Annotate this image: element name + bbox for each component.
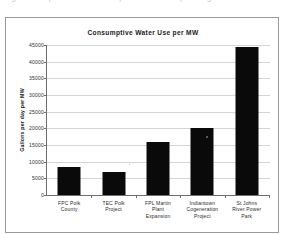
y-axis-tick-label: 40000	[29, 59, 44, 65]
x-axis-category-label-line: Project	[179, 213, 225, 219]
x-axis-tick-mark	[180, 195, 181, 198]
y-axis-tick-label: 0	[41, 192, 44, 198]
y-axis-tick-label: 35000	[29, 75, 44, 81]
page-top-cut-text: Figure Comparison of consumptive water u…	[0, 0, 286, 11]
x-axis-category-label: St JohnsRiver PowerPark	[224, 200, 270, 219]
x-axis-category-label: FPL MartinPlantExpansion	[135, 200, 181, 219]
x-axis-category-label-line: Park	[224, 213, 270, 219]
bar[interactable]	[235, 47, 258, 195]
x-axis-tick-marks	[47, 195, 269, 198]
x-axis-labels: FPC PolkCountyTEC PolkProjectFPL MartinP…	[47, 200, 269, 230]
chart-figure-frame: Consumptive Water Use per MW Gallons per…	[5, 17, 279, 233]
y-axis-tick-label: 25000	[29, 109, 44, 115]
x-axis-category-label: TEC PolkProject	[91, 200, 137, 213]
bar[interactable]	[102, 172, 125, 195]
bar-slot	[47, 45, 91, 195]
x-axis-category-label-line: County	[46, 206, 92, 212]
y-axis-title-label: Gallons per day per MW	[19, 88, 25, 152]
bar[interactable]	[58, 167, 81, 195]
x-axis-tick-mark	[225, 195, 226, 198]
page-top-cut-text-label: Figure Comparison of consumptive water u…	[4, 0, 232, 2]
x-axis-category-label-line: Project	[91, 206, 137, 212]
y-axis-title: Gallons per day per MW	[17, 45, 27, 195]
x-axis-tick-mark	[136, 195, 137, 198]
x-axis-tick-mark	[91, 195, 92, 198]
bar-slot	[91, 45, 135, 195]
bar-slot	[180, 45, 224, 195]
bar[interactable]	[191, 128, 214, 195]
y-axis-tick-label: 15000	[29, 142, 44, 148]
y-axis-tick-label: 45000	[29, 42, 44, 48]
scan-speckle	[206, 136, 208, 138]
y-axis-tick-label: 30000	[29, 92, 44, 98]
x-axis-category-label: FPC PolkCounty	[46, 200, 92, 213]
chart-title: Consumptive Water Use per MW	[6, 29, 279, 36]
x-axis-category-label-line: Expansion	[135, 213, 181, 219]
y-axis-tick-label: 20000	[29, 125, 44, 131]
y-axis-tick-label: 10000	[29, 159, 44, 165]
bar-slot	[136, 45, 180, 195]
y-axis-tick-label: 5000	[32, 175, 44, 181]
bar[interactable]	[146, 142, 169, 195]
bars-layer	[47, 45, 269, 195]
x-axis-category-label: IndiantownCogenerationProject	[179, 200, 225, 219]
bar-slot	[225, 45, 269, 195]
x-axis-tick-mark	[269, 195, 270, 198]
scan-speckle	[129, 164, 130, 165]
